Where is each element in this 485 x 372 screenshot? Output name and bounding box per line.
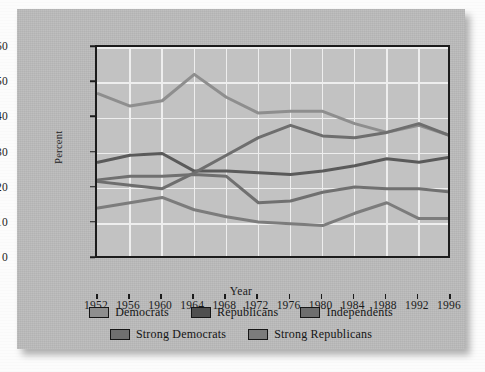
line-chart: 0102030405060195219561960196419681972197… bbox=[95, 45, 450, 258]
chart-svg bbox=[97, 47, 450, 258]
legend-item-republicans: Republicans bbox=[191, 305, 279, 320]
legend-item-strong-republicans: Strong Republicans bbox=[248, 327, 372, 342]
legend-label: Strong Republicans bbox=[274, 327, 372, 342]
legend-row: Strong DemocratsStrong Republicans bbox=[17, 327, 465, 342]
y-axis-tick-mark bbox=[90, 221, 95, 223]
legend-swatch bbox=[248, 329, 268, 340]
y-axis-tick-mark bbox=[90, 45, 95, 47]
legend-swatch bbox=[191, 307, 211, 318]
figure-card: 0102030405060195219561960196419681972197… bbox=[17, 9, 465, 349]
legend-item-strong-democrats: Strong Democrats bbox=[110, 327, 226, 342]
legend-label: Strong Democrats bbox=[136, 327, 226, 342]
y-axis-tick-label: 20 bbox=[0, 181, 8, 193]
y-axis-tick-label: 0 bbox=[0, 251, 8, 263]
y-axis-tick-mark bbox=[90, 151, 95, 153]
y-axis-tick-label: 50 bbox=[0, 75, 8, 87]
legend-label: Independents bbox=[326, 305, 392, 320]
chart-legend: DemocratsRepublicansIndependentsStrong D… bbox=[17, 305, 465, 349]
series-line-republicans bbox=[98, 154, 450, 175]
y-axis-tick-label: 10 bbox=[0, 216, 8, 228]
series-line-independents bbox=[98, 124, 450, 189]
y-axis-tick-mark bbox=[90, 256, 95, 258]
legend-item-independents: Independents bbox=[300, 305, 392, 320]
legend-item-democrats: Democrats bbox=[89, 305, 169, 320]
y-axis-tick-label: 60 bbox=[0, 40, 8, 52]
y-axis-tick-mark bbox=[90, 186, 95, 188]
legend-label: Democrats bbox=[115, 305, 169, 320]
y-axis-tick-label: 30 bbox=[0, 146, 8, 158]
y-axis-tick-mark bbox=[90, 80, 95, 82]
legend-swatch bbox=[89, 307, 109, 318]
y-axis-tick-mark bbox=[90, 116, 95, 118]
y-axis-label: Percent bbox=[53, 130, 64, 164]
plot-area bbox=[95, 45, 450, 258]
x-axis-label: Year bbox=[17, 285, 465, 297]
legend-swatch bbox=[300, 307, 320, 318]
legend-swatch bbox=[110, 329, 130, 340]
legend-label: Republicans bbox=[217, 305, 279, 320]
y-axis-tick-label: 40 bbox=[0, 110, 8, 122]
legend-row: DemocratsRepublicansIndependents bbox=[17, 305, 465, 320]
